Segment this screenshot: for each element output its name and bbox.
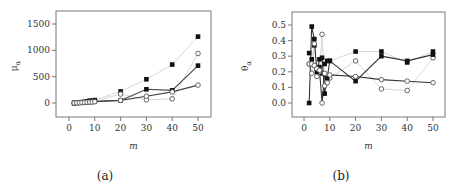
y-tick-label: 0.1 [272, 82, 286, 92]
data-point-square [144, 87, 149, 92]
x-tick-label: 40 [401, 123, 413, 133]
y-tick-label: 0.3 [272, 51, 287, 61]
data-point-circle [320, 32, 325, 37]
data-point-square [307, 101, 312, 106]
data-point-square [170, 62, 175, 67]
y-tick-label: 0.2 [272, 67, 286, 77]
data-point-circle [320, 101, 325, 106]
x-tick-label: 30 [141, 123, 153, 133]
data-point-square [196, 34, 201, 39]
data-point-circle [93, 99, 98, 104]
x-tick-label: 0 [301, 123, 307, 133]
panel-a: 01020304050050010001500mμα(a) [9, 11, 211, 183]
y-tick-label: 0.4 [272, 36, 287, 46]
data-point-circle [196, 83, 201, 88]
data-point-square [353, 49, 358, 54]
data-point-circle [196, 51, 201, 56]
data-point-square [405, 59, 410, 64]
y-tick-label: 500 [33, 72, 50, 82]
data-point-square [328, 59, 333, 64]
series-line-filled-light [74, 37, 198, 103]
data-point-square [307, 51, 312, 56]
data-point-circle [118, 92, 123, 97]
data-point-square [320, 55, 325, 60]
y-tick-label: 1500 [27, 19, 50, 29]
data-point-square [309, 24, 314, 29]
y-tick-label: 1000 [27, 45, 50, 55]
data-point-circle [322, 71, 327, 76]
data-point-circle [431, 80, 436, 85]
data-point-square [353, 79, 358, 84]
data-point-circle [170, 96, 175, 101]
x-tick-label: 50 [427, 123, 439, 133]
data-point-circle [317, 68, 322, 73]
x-tick-label: 10 [324, 123, 336, 133]
data-point-square [379, 54, 384, 59]
x-tick-label: 10 [89, 123, 101, 133]
data-point-circle [325, 80, 330, 85]
figure-caption: (b) [332, 169, 349, 183]
x-tick-label: 40 [166, 123, 178, 133]
data-point-circle [353, 59, 358, 64]
x-tick-label: 30 [376, 123, 388, 133]
data-point-circle [309, 71, 314, 76]
data-point-circle [405, 88, 410, 93]
data-point-circle [118, 98, 123, 103]
x-tick-label: 50 [192, 123, 204, 133]
x-tick-label: 20 [350, 123, 362, 133]
y-axis-label: μα [9, 60, 22, 71]
data-point-circle [170, 90, 175, 95]
figure: 01020304050050010001500mμα(a) 0102030405… [0, 0, 451, 189]
figure-caption: (a) [97, 169, 114, 183]
x-tick-label: 0 [66, 123, 72, 133]
data-point-circle [379, 77, 384, 82]
data-point-square [144, 77, 149, 82]
y-tick-label: 0.0 [272, 98, 287, 108]
y-axis-label: θα [240, 61, 253, 71]
data-point-square [309, 57, 314, 62]
data-point-circle [328, 73, 333, 78]
data-point-square [196, 63, 201, 68]
data-point-circle [353, 74, 358, 79]
data-point-circle [312, 41, 317, 46]
data-point-square [312, 37, 317, 42]
x-axis-label: m [364, 141, 373, 151]
x-axis-label: m [129, 141, 138, 151]
x-tick-label: 20 [115, 123, 127, 133]
data-point-circle [379, 87, 384, 92]
series-line-filled-dark [309, 27, 433, 103]
data-point-circle [405, 79, 410, 84]
data-point-square [379, 49, 384, 54]
data-point-square [322, 91, 327, 96]
series-line-open-light [74, 54, 198, 104]
panel-b: 010203040500.00.10.20.30.40.5mθα(b) [240, 12, 445, 183]
data-point-circle [144, 94, 149, 99]
data-point-square [431, 52, 436, 57]
y-tick-label: 0 [44, 98, 50, 108]
y-tick-label: 0.5 [272, 20, 287, 30]
data-point-circle [315, 74, 320, 79]
